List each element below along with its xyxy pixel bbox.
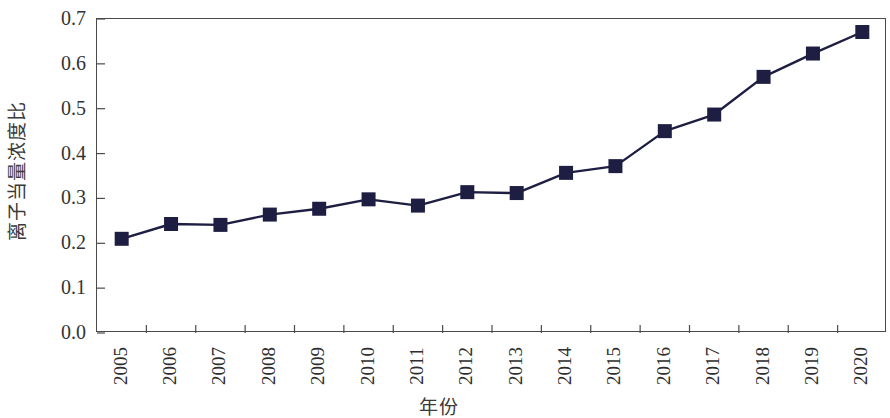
x-axis-tick-label-text: 2015: [603, 347, 625, 385]
x-axis-tick-label-text: 2018: [752, 347, 774, 385]
x-axis-tick-label-text: 2017: [702, 347, 724, 385]
plot-svg: [97, 19, 887, 333]
data-point-marker: [312, 202, 326, 216]
x-axis-title: 年份: [0, 392, 877, 418]
x-axis-tick-label-text: 2008: [258, 347, 280, 385]
plot-area: [96, 18, 886, 332]
y-axis-tick-label: 0.7: [61, 7, 86, 30]
x-axis-tick-label-text: 2019: [801, 347, 823, 385]
y-axis-tick-label: 0.2: [61, 231, 86, 254]
x-axis-tick-label-text: 2006: [159, 347, 181, 385]
data-point-marker: [658, 124, 672, 138]
data-point-marker: [164, 217, 178, 231]
x-axis-tick-label-text: 2010: [357, 347, 379, 385]
series-line: [122, 32, 863, 239]
data-point-marker: [460, 185, 474, 199]
y-axis-tick-labels: 0.00.10.20.30.40.50.60.7: [30, 0, 92, 350]
y-axis-title: 离子当量浓度比: [0, 0, 30, 340]
y-axis-tick-label: 0.3: [61, 186, 86, 209]
x-axis-tick-label-text: 2013: [505, 347, 527, 385]
x-axis-tick-label-text: 2005: [110, 347, 132, 385]
x-axis-tick-label-text: 2016: [653, 347, 675, 385]
data-point-marker: [757, 70, 771, 84]
y-axis-tick-label: 0.6: [61, 51, 86, 74]
x-axis-tick-label-text: 2007: [208, 347, 230, 385]
x-axis-tick-label-text: 2020: [850, 347, 872, 385]
x-axis-tick-label-text: 2009: [307, 347, 329, 385]
x-axis-tick-labels: 2005200620072008200920102011201220132014…: [96, 336, 886, 394]
x-axis-tick-label: 2020: [832, 336, 890, 394]
data-point-marker: [510, 186, 524, 200]
y-axis-tick-label: 0.1: [61, 276, 86, 299]
y-axis-tick-label: 0.5: [61, 96, 86, 119]
data-point-marker: [806, 47, 820, 61]
data-point-marker: [362, 192, 376, 206]
y-axis-title-text: 离子当量浓度比: [2, 100, 29, 240]
x-axis-tick-label-text: 2011: [406, 347, 428, 384]
data-point-marker: [559, 166, 573, 180]
y-axis-tick-label: 0.4: [61, 141, 86, 164]
data-point-marker: [115, 232, 129, 246]
data-point-marker: [855, 25, 869, 39]
data-point-marker: [608, 159, 622, 173]
x-axis-tick-label-text: 2012: [455, 347, 477, 385]
y-axis-tick-label: 0.0: [61, 321, 86, 344]
x-axis-tick-label-text: 2014: [554, 347, 576, 385]
data-point-marker: [707, 108, 721, 122]
data-point-marker: [263, 208, 277, 222]
data-point-marker: [411, 199, 425, 213]
data-point-marker: [213, 218, 227, 232]
